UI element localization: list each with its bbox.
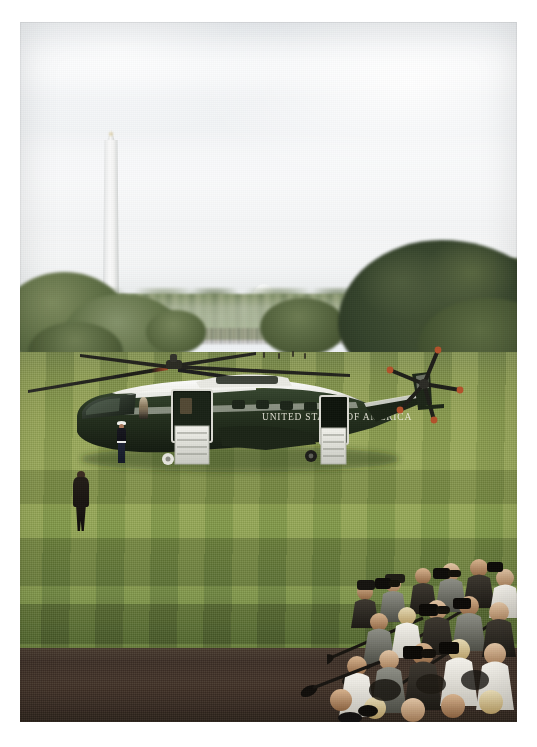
camera-body xyxy=(453,598,471,609)
camera-lens xyxy=(389,580,400,587)
press-corps xyxy=(327,550,517,722)
cloud-band xyxy=(20,142,517,197)
camera-body xyxy=(439,642,459,654)
camera-bag xyxy=(416,674,446,694)
washington-monument xyxy=(102,118,120,308)
camera-bag xyxy=(369,679,401,701)
press-figure xyxy=(401,698,425,722)
camera-lens xyxy=(436,606,450,614)
photograph: UNITED STATES OF AMERICA xyxy=(20,22,517,722)
camera-lens xyxy=(448,570,461,577)
monument-light-glint xyxy=(109,132,113,136)
crew-attendant xyxy=(139,397,148,419)
camera-body xyxy=(433,568,450,579)
distant-figure xyxy=(304,353,306,359)
distant-figure xyxy=(292,351,294,357)
press-corps-figures xyxy=(327,550,517,722)
cloud-band xyxy=(20,48,517,88)
camera-lens xyxy=(421,649,436,658)
camera-bag xyxy=(461,670,489,690)
photo-caption: Marine One on the White House South Lawn xyxy=(0,0,1,1)
press-figure xyxy=(441,694,465,718)
marine-sentry xyxy=(116,421,127,463)
distant-figure xyxy=(278,353,280,359)
press-figure xyxy=(330,689,352,711)
walker-torso xyxy=(73,477,89,507)
tree-line-distant xyxy=(260,298,346,356)
camera-body xyxy=(487,562,503,572)
tree-mid-cluster xyxy=(146,310,206,354)
camera-body xyxy=(375,578,391,589)
camera-body xyxy=(419,604,438,616)
camera-body xyxy=(403,646,423,659)
page-root: UNITED STATES OF AMERICA xyxy=(0,0,537,747)
press-figure xyxy=(479,690,503,714)
marine-trousers xyxy=(118,443,125,463)
distant-figure xyxy=(263,352,265,358)
walker-legs xyxy=(76,504,86,531)
man-in-suit-walking xyxy=(71,471,91,531)
